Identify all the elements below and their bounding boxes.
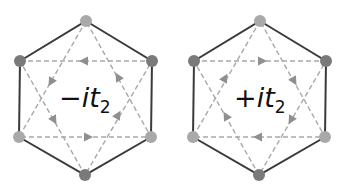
dashed-triangle-a — [193, 21, 325, 137]
arrow-icon — [220, 109, 232, 121]
dashed-triangle-a — [19, 21, 151, 137]
vertex — [14, 55, 26, 67]
vertex — [13, 131, 25, 143]
arrow-icon — [285, 114, 297, 126]
vertex — [145, 131, 157, 143]
arrow-icon — [79, 57, 88, 66]
arrow-icon — [84, 133, 93, 142]
vertex — [254, 15, 266, 27]
arrow-icon — [112, 70, 124, 82]
hopping-label: +it2 — [234, 82, 286, 117]
vertex — [253, 169, 265, 181]
vertex — [79, 169, 91, 181]
arrow-icon — [112, 108, 124, 120]
hopping-diagrams: −it2 +it2 — [0, 0, 348, 191]
vertex — [187, 131, 199, 143]
arrow-icon — [258, 57, 267, 66]
arrow-icon — [253, 133, 262, 142]
arrow-icon — [288, 75, 300, 87]
vertex — [80, 15, 92, 27]
dashed-triangle-b — [194, 61, 326, 175]
dashed-triangle-b — [20, 61, 152, 175]
vertex — [188, 55, 200, 67]
panel-minus-it2: −it2 — [13, 15, 158, 181]
hopping-label: −it2 — [59, 82, 111, 117]
vertex — [146, 55, 158, 67]
arrow-icon — [45, 76, 57, 88]
vertex — [320, 55, 332, 67]
vertex — [319, 131, 331, 143]
arrow-icon — [48, 114, 60, 126]
panel-plus-it2: +it2 — [187, 15, 332, 181]
